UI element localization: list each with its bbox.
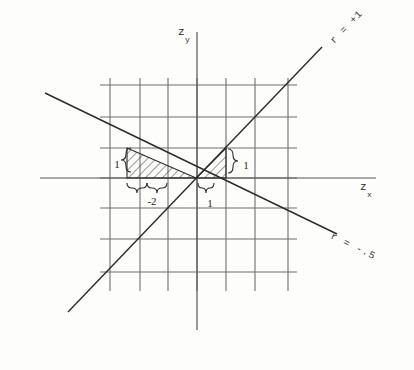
right-vertical-measure-label: 1 <box>243 159 249 171</box>
y-axis-label: z <box>178 26 185 38</box>
right-vertical-brace <box>228 149 238 173</box>
left-horizontal-measure-label: -2 <box>147 195 156 207</box>
y-axis-label-group: z y <box>178 26 190 44</box>
right-horizontal-brace <box>198 183 214 193</box>
figure-container: 1 -2 1 1 z y z x r = +1 r = -.5 <box>0 0 414 370</box>
coordinate-plane-figure: 1 -2 1 1 z y z x r = +1 r = -.5 <box>0 0 414 370</box>
x-axis-label: z <box>360 181 367 193</box>
negative-correlation-line-label: r = -.5 <box>329 231 378 262</box>
negative-correlation-line <box>45 93 337 234</box>
right-horizontal-measure-label: 1 <box>207 197 213 209</box>
x-axis-label-group: z x <box>360 181 372 199</box>
hatched-regions <box>120 140 232 185</box>
axes <box>40 32 376 330</box>
x-axis-subscript: x <box>367 190 372 199</box>
left-vertical-measure-label: 1 <box>114 158 120 170</box>
y-axis-subscript: y <box>185 35 190 44</box>
positive-correlation-line-label: r = +1 <box>328 8 365 46</box>
left-horizontal-brace <box>127 183 167 193</box>
